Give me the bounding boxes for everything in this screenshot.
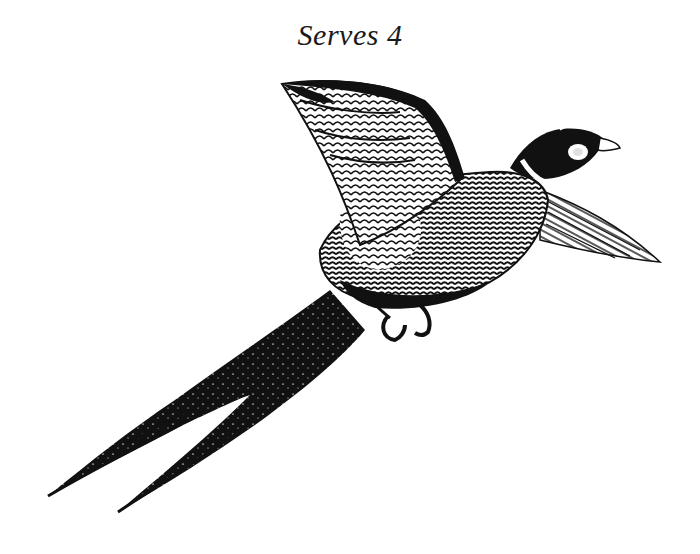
tail-feathers — [48, 290, 365, 512]
pheasant-illustration — [0, 0, 700, 554]
pheasant-head — [510, 126, 620, 183]
recipe-page: Serves 4 — [0, 0, 700, 554]
far-wing — [540, 190, 660, 262]
